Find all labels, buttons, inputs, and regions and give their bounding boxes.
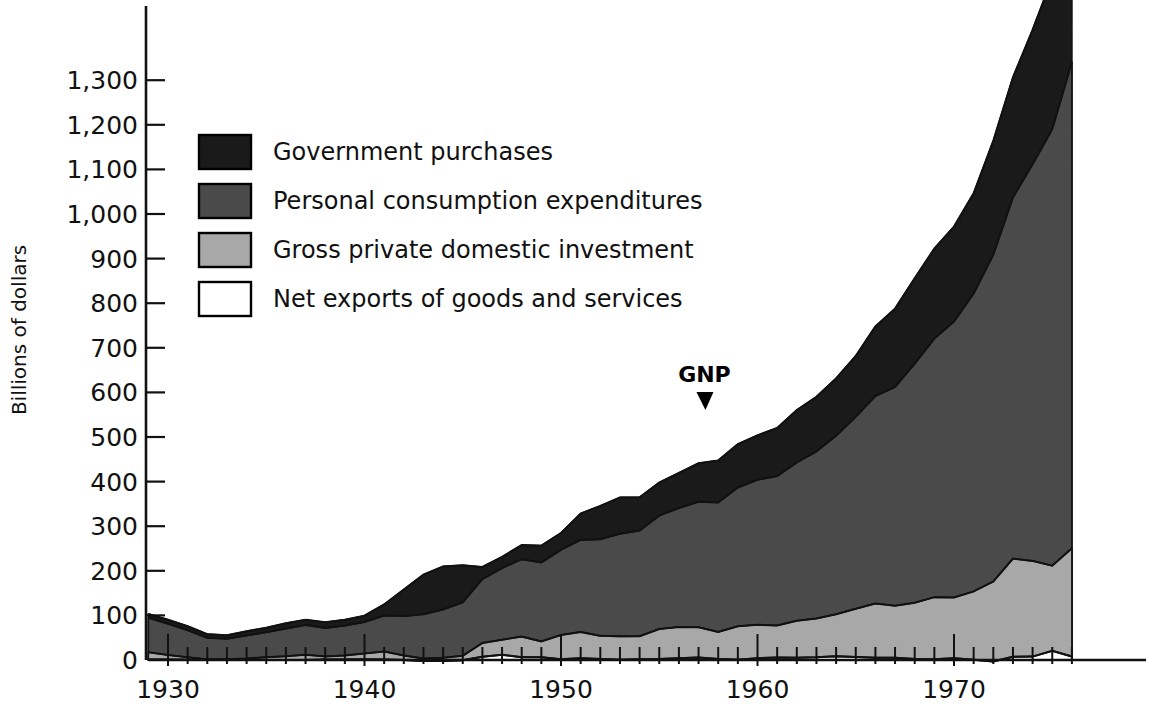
legend-swatch xyxy=(199,135,251,169)
legend-swatch xyxy=(199,184,251,218)
y-tick-label: 100 xyxy=(90,601,138,630)
y-tick-label: 1,100 xyxy=(66,155,138,184)
stacked-area-chart: 01002003004005006007008009001,0001,1001,… xyxy=(0,0,1155,717)
legend-label: Net exports of goods and services xyxy=(273,285,683,313)
legend-item[interactable]: Government purchases xyxy=(199,135,553,169)
y-tick-label: 500 xyxy=(90,423,138,452)
x-tick-label: 1950 xyxy=(529,675,593,704)
legend-label: Government purchases xyxy=(273,138,553,166)
y-tick-label: 900 xyxy=(90,245,138,274)
legend-swatch xyxy=(199,282,251,316)
y-tick-label: 300 xyxy=(90,512,138,541)
annotation-label: GNP xyxy=(678,362,731,387)
y-tick-label: 600 xyxy=(90,378,138,407)
legend-label: Personal consumption expenditures xyxy=(273,187,703,215)
y-tick-label: 1,300 xyxy=(66,66,138,95)
chart-container: 01002003004005006007008009001,0001,1001,… xyxy=(0,0,1155,717)
y-tick-label: 0 xyxy=(122,646,138,675)
y-axis-title: Billions of dollars xyxy=(7,245,31,415)
x-tick-label: 1970 xyxy=(922,675,986,704)
y-tick-label: 700 xyxy=(90,334,138,363)
legend-item[interactable]: Personal consumption expenditures xyxy=(199,184,703,218)
x-tick-label: 1940 xyxy=(333,675,397,704)
y-tick-label: 200 xyxy=(90,557,138,586)
y-tick-label: 800 xyxy=(90,289,138,318)
y-tick-label: 1,000 xyxy=(66,200,138,229)
legend-label: Gross private domestic investment xyxy=(273,236,694,264)
x-tick-label: 1960 xyxy=(726,675,790,704)
legend-swatch xyxy=(199,233,251,267)
legend-item[interactable]: Gross private domestic investment xyxy=(199,233,694,267)
x-tick-label: 1930 xyxy=(136,675,200,704)
y-tick-label: 1,200 xyxy=(66,111,138,140)
y-tick-label: 400 xyxy=(90,468,138,497)
